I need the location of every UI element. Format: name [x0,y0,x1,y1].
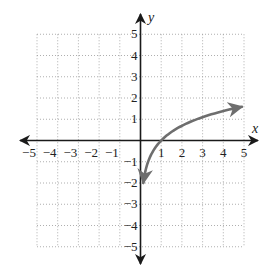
x-tick-label: −5 [22,145,36,160]
y-tick-label: −4 [124,218,138,233]
axes [20,14,258,264]
x-tick-label: 3 [199,145,206,160]
log-function-graph: −5−4−3−2−112345−5−4−3−2−112345 x y [0,0,273,267]
y-axis-label: y [146,10,155,25]
x-tick-label: 5 [241,145,248,160]
function-curve [143,107,242,183]
x-tick-label: −2 [84,145,98,160]
y-tick-label: −3 [124,196,138,211]
y-tick-label: 2 [131,90,138,105]
x-axis-label: x [251,121,259,136]
y-tick-label: −1 [124,154,138,169]
x-tick-label: 2 [179,145,186,160]
y-tick-label: 3 [131,69,138,84]
x-tick-label: 4 [220,145,227,160]
y-tick-label: −2 [124,175,138,190]
x-tick-label: −1 [105,145,119,160]
y-tick-label: 1 [131,111,138,126]
curve-layer [143,107,242,183]
x-tick-label: 1 [158,145,165,160]
y-tick-label: 4 [131,48,138,63]
y-tick-label: −5 [124,239,138,254]
x-tick-label: −4 [43,145,57,160]
y-tick-label: 5 [131,26,138,41]
x-tick-label: −3 [63,145,77,160]
